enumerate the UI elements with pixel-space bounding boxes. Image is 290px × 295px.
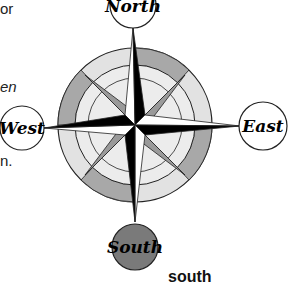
svg-text:North: North (104, 0, 161, 16)
svg-text:West: West (0, 118, 45, 138)
east-marker: East (239, 102, 287, 150)
svg-text:South: South (107, 237, 163, 257)
west-marker: West (0, 106, 45, 150)
south-marker: South (107, 224, 163, 270)
svg-text:East: East (241, 116, 284, 136)
compass-rose: North West East South (0, 0, 290, 295)
caption: south (168, 268, 212, 286)
north-marker: North (104, 0, 161, 28)
